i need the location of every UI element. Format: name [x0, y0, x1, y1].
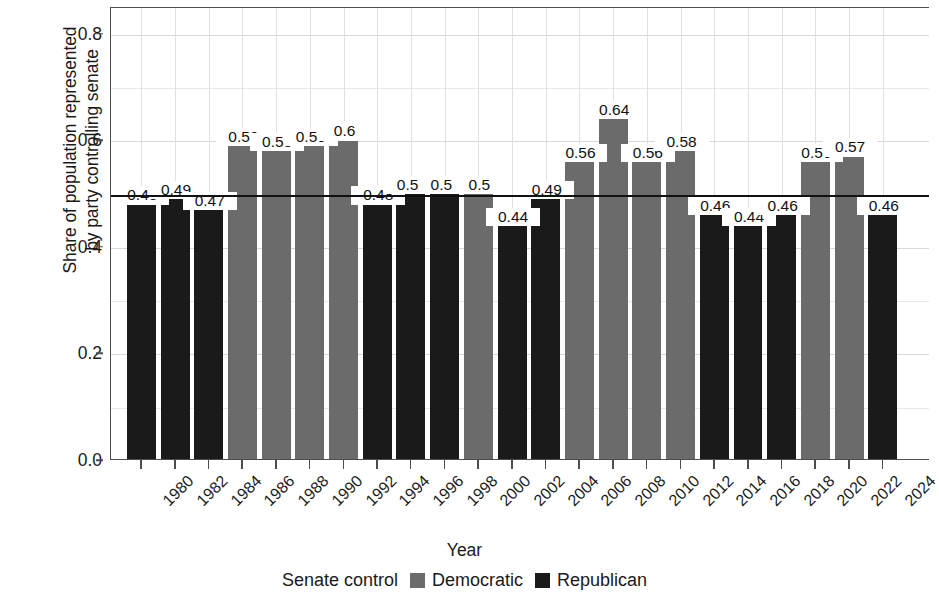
x-tick-mark: [848, 460, 850, 469]
bar: [161, 198, 190, 459]
x-tick-label: 1982: [193, 472, 231, 510]
legend-swatch-icon: [535, 573, 550, 588]
bar: [194, 209, 223, 459]
bar: [363, 203, 392, 459]
y-tick-label: 0.0: [50, 450, 102, 471]
legend-item-republican[interactable]: Republican: [535, 570, 647, 591]
bar: [464, 193, 493, 459]
x-tick-label: 2014: [733, 472, 771, 510]
legend-swatch-icon: [410, 573, 425, 588]
bar-value-label: 0.57: [823, 138, 877, 157]
bar: [632, 161, 661, 459]
x-tick-label: 2008: [632, 472, 670, 510]
x-tick-label: 1986: [261, 472, 299, 510]
x-tick-mark: [343, 460, 345, 469]
x-axis-title: Year: [0, 540, 929, 561]
x-axis-ticks: 1980198219841986198819901992199419961998…: [110, 460, 929, 470]
x-tick-mark: [174, 460, 176, 469]
y-tick-label: 0.6: [50, 130, 102, 151]
bar: [700, 214, 729, 459]
bar: [430, 193, 459, 459]
x-tick-label: 2022: [868, 472, 906, 510]
y-tick-label: 0.2: [50, 343, 102, 364]
bar-value-label: 0.49: [520, 181, 574, 200]
bar: [531, 198, 560, 459]
bar-value-label: 0.6: [318, 122, 372, 141]
x-tick-label: 2024: [901, 472, 939, 510]
bar: [734, 225, 763, 459]
x-tick-mark: [781, 460, 783, 469]
bar: [868, 214, 897, 459]
x-tick-mark: [747, 460, 749, 469]
x-tick-mark: [241, 460, 243, 469]
x-tick-mark: [882, 460, 884, 469]
x-tick-label: 2018: [800, 472, 838, 510]
bar: [599, 118, 628, 459]
x-tick-mark: [680, 460, 682, 469]
bar-value-label: 0.5: [452, 176, 506, 195]
plot-area: 0.480.490.470.590.580.590.60.480.500.500…: [110, 7, 929, 460]
y-tick-label: 0.4: [50, 236, 102, 257]
y-tick-label: 0.8: [50, 23, 102, 44]
bar-value-label: 0.46: [756, 197, 810, 216]
y-tick-mark: [96, 353, 103, 355]
bar-value-label: 0.58: [655, 133, 709, 152]
bar-value-label: 0.44: [486, 208, 540, 227]
x-tick-mark: [477, 460, 479, 469]
y-tick-mark: [96, 139, 103, 141]
x-tick-label: 2002: [530, 472, 568, 510]
bar-value-label: 0.56: [553, 144, 607, 163]
bars-layer: 0.480.490.470.590.580.590.60.480.500.500…: [111, 8, 929, 459]
x-tick-mark: [511, 460, 513, 469]
x-tick-mark: [646, 460, 648, 469]
x-tick-label: 1992: [362, 472, 400, 510]
x-tick-mark: [713, 460, 715, 469]
x-tick-label: 2020: [834, 472, 872, 510]
bar: [295, 145, 324, 459]
y-tick-mark: [96, 459, 103, 461]
x-tick-label: 1980: [160, 472, 198, 510]
bar: [565, 161, 594, 459]
x-tick-label: 1984: [227, 472, 265, 510]
x-tick-label: 1998: [463, 472, 501, 510]
x-tick-mark: [612, 460, 614, 469]
x-tick-mark: [275, 460, 277, 469]
x-tick-mark: [309, 460, 311, 469]
x-tick-mark: [410, 460, 412, 469]
x-tick-label: 2006: [598, 472, 636, 510]
bar-value-label: 0.46: [857, 197, 911, 216]
x-tick-label: 2010: [665, 472, 703, 510]
x-tick-label: 2016: [766, 472, 804, 510]
legend-label: Republican: [557, 570, 647, 591]
x-tick-label: 2000: [497, 472, 535, 510]
x-tick-label: 1988: [295, 472, 333, 510]
bar: [127, 203, 156, 459]
legend: Senate control DemocraticRepublican: [0, 570, 929, 591]
x-tick-label: 1990: [328, 472, 366, 510]
bar: [767, 214, 796, 459]
x-tick-label: 1994: [396, 472, 434, 510]
legend-label: Democratic: [432, 570, 523, 591]
legend-title: Senate control: [282, 570, 398, 591]
legend-item-democratic[interactable]: Democratic: [410, 570, 523, 591]
x-tick-mark: [545, 460, 547, 469]
x-tick-mark: [578, 460, 580, 469]
bar-value-label: 0.64: [587, 101, 641, 120]
x-tick-label: 2004: [564, 472, 602, 510]
x-tick-mark: [140, 460, 142, 469]
x-tick-label: 1996: [429, 472, 467, 510]
y-axis-ticks: 0.00.20.40.60.8: [40, 0, 102, 603]
bar: [498, 225, 527, 459]
x-tick-mark: [376, 460, 378, 469]
y-tick-mark: [96, 246, 103, 248]
reference-line-50-percent: [111, 195, 929, 197]
x-tick-mark: [444, 460, 446, 469]
x-tick-mark: [814, 460, 816, 469]
x-tick-mark: [208, 460, 210, 469]
x-tick-label: 2012: [699, 472, 737, 510]
bar: [396, 193, 425, 459]
y-tick-mark: [96, 33, 103, 35]
